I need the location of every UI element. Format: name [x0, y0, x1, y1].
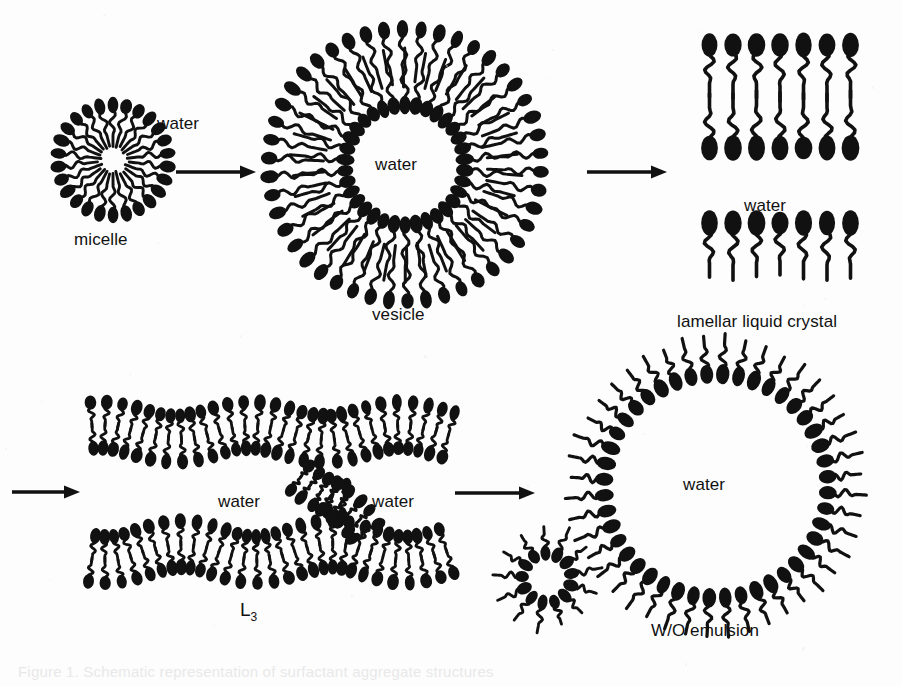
caption-strip: Figure 1. Schematic representation of su… [0, 657, 902, 687]
water-label-vesicle: water [375, 156, 417, 173]
scan-speck [424, 355, 427, 358]
scan-speck [685, 663, 687, 666]
l3-base: L [240, 599, 251, 620]
surfactant-self-assembly-figure: water micelle water vesicle water lamell… [0, 0, 902, 687]
structure-label-micelle: micelle [74, 231, 128, 248]
scan-speck [831, 266, 833, 267]
structure-label-lamellar-liquid-crystal: lamellar liquid crystal [677, 313, 837, 330]
caption-ghost-text: Figure 1. Schematic representation of su… [18, 663, 494, 680]
l3-subscript: 3 [251, 610, 258, 624]
water-label-l3-left: water [218, 493, 260, 510]
scan-speck [802, 647, 805, 650]
scan-speck [41, 399, 42, 402]
scan-speck [527, 484, 529, 487]
scan-speck [351, 594, 354, 597]
structure-label-wo-emulsion: W/O emulsion [651, 622, 759, 639]
water-label-l3-right: water [372, 493, 414, 510]
water-label-emulsion: water [683, 476, 725, 493]
scan-speck [698, 31, 699, 32]
structure-label-vesicle: vesicle [372, 306, 425, 323]
diagram-artwork [0, 0, 902, 687]
scan-speck [551, 49, 555, 51]
scan-speck [322, 133, 325, 135]
structure-label-l3: L3 [240, 600, 257, 623]
scan-speck [446, 65, 448, 67]
scan-speck [643, 433, 645, 436]
water-label-lamellar: water [744, 197, 786, 214]
water-label-micelle: water [157, 115, 199, 132]
scan-speck [824, 298, 826, 300]
